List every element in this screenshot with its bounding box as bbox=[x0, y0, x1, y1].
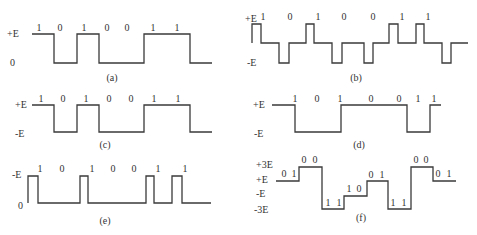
bit-label: 0 bbox=[282, 168, 287, 179]
waveform-e bbox=[28, 176, 211, 203]
bit-label: 1 bbox=[84, 93, 89, 104]
bit-label: 0 bbox=[132, 163, 137, 174]
level-label: +3E bbox=[256, 159, 273, 170]
level-label: -E bbox=[256, 188, 265, 199]
bit-label: 1 bbox=[175, 22, 180, 33]
bit-label: 1 bbox=[447, 168, 452, 179]
level-label: 0 bbox=[18, 200, 23, 211]
bit-label: 1 bbox=[400, 11, 405, 22]
panel-caption: (f) bbox=[356, 212, 366, 224]
level-label: +E bbox=[7, 28, 19, 39]
line-coding-waveforms-figure: +E01010011(a)+E-E1010011(b)+E-E1010011(c… bbox=[0, 0, 477, 235]
bit-label: 0 bbox=[313, 154, 318, 165]
bit-label: 1 bbox=[39, 93, 44, 104]
bit-label: 1 bbox=[183, 163, 188, 174]
bit-label: 0 bbox=[61, 93, 66, 104]
panel-f: +3E+E-E-3E0100111001110001(f) bbox=[254, 154, 456, 224]
bit-label: 1 bbox=[152, 93, 157, 104]
level-label: +E bbox=[253, 99, 265, 110]
bit-label: 0 bbox=[342, 11, 347, 22]
level-label: +E bbox=[15, 99, 27, 110]
bit-label: 1 bbox=[38, 163, 43, 174]
level-label: 0 bbox=[10, 57, 15, 68]
bit-label: 0 bbox=[58, 22, 63, 33]
panel-a: +E01010011(a) bbox=[7, 22, 212, 84]
bit-label: 1 bbox=[416, 93, 421, 104]
bit-label: 1 bbox=[37, 22, 42, 33]
bit-label: 1 bbox=[176, 93, 181, 104]
waveform-c bbox=[32, 105, 212, 132]
bit-label: 1 bbox=[156, 163, 161, 174]
bit-label: 1 bbox=[293, 93, 298, 104]
bit-label: 1 bbox=[90, 163, 95, 174]
bit-label: 1 bbox=[261, 11, 266, 22]
level-label: -E bbox=[254, 128, 263, 139]
panel-d: +E-E1010011(d) bbox=[253, 93, 441, 151]
panel-e: -E01010011(e) bbox=[12, 163, 211, 227]
panel-c: +E-E1010011(c) bbox=[15, 93, 212, 151]
level-label: -E bbox=[247, 57, 256, 68]
bit-label: 0 bbox=[369, 169, 374, 180]
panel-caption: (a) bbox=[106, 72, 117, 84]
bit-label: 0 bbox=[107, 93, 112, 104]
level-label: +E bbox=[245, 13, 257, 24]
bit-label: 0 bbox=[105, 22, 110, 33]
bit-label: 1 bbox=[380, 169, 385, 180]
bit-label: 1 bbox=[338, 93, 343, 104]
bit-label: 0 bbox=[369, 93, 374, 104]
level-label: -3E bbox=[254, 204, 268, 215]
bit-label: 0 bbox=[315, 93, 320, 104]
bit-label: 1 bbox=[347, 183, 352, 194]
waveform-d bbox=[272, 105, 441, 132]
bit-label: 0 bbox=[125, 22, 130, 33]
panel-caption: (c) bbox=[99, 139, 110, 151]
bit-label: 0 bbox=[302, 154, 307, 165]
bit-label: 1 bbox=[292, 168, 297, 179]
bit-label: 0 bbox=[424, 154, 429, 165]
bit-label: 0 bbox=[436, 168, 441, 179]
panel-caption: (e) bbox=[99, 215, 110, 227]
bit-label: 1 bbox=[326, 197, 331, 208]
waveform-f bbox=[276, 167, 456, 209]
bit-label: 1 bbox=[402, 197, 407, 208]
bit-label: 1 bbox=[82, 22, 87, 33]
bit-label: 0 bbox=[357, 183, 362, 194]
bit-label: 0 bbox=[60, 163, 65, 174]
level-label: -E bbox=[15, 128, 24, 139]
panel-caption: (b) bbox=[350, 72, 362, 84]
level-label: +E bbox=[256, 174, 268, 185]
bit-label: 0 bbox=[111, 163, 116, 174]
bit-label: 0 bbox=[288, 11, 293, 22]
bit-label: 1 bbox=[426, 11, 431, 22]
waveform-b bbox=[252, 24, 468, 63]
panel-caption: (d) bbox=[353, 139, 365, 151]
bit-label: 1 bbox=[432, 93, 437, 104]
bit-label: 1 bbox=[151, 22, 156, 33]
bit-label: 0 bbox=[371, 11, 376, 22]
bit-label: 1 bbox=[391, 197, 396, 208]
panel-b: +E-E1010011(b) bbox=[245, 11, 468, 84]
bit-label: 0 bbox=[414, 154, 419, 165]
bit-label: 1 bbox=[316, 11, 321, 22]
bit-label: 0 bbox=[129, 93, 134, 104]
level-label: -E bbox=[12, 169, 21, 180]
waveform-a bbox=[32, 34, 212, 63]
bit-label: 1 bbox=[337, 197, 342, 208]
bit-label: 0 bbox=[397, 93, 402, 104]
